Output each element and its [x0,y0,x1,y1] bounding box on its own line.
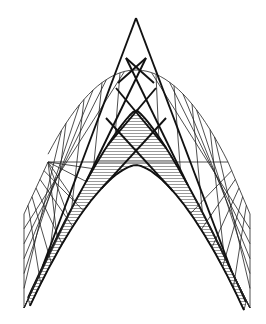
outer-shell-grid-lines [24,70,250,310]
shell-structure-diagram [0,0,266,324]
hatched-inner-surface [28,111,246,311]
